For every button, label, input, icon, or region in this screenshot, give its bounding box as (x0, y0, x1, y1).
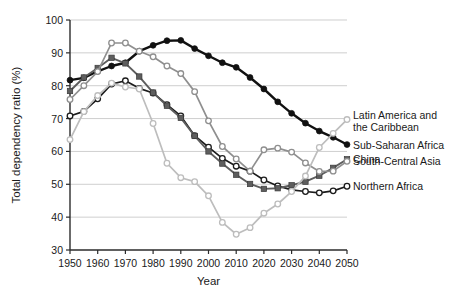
data-point (220, 161, 225, 166)
data-point (109, 80, 115, 86)
data-point (344, 142, 350, 148)
data-point (303, 120, 309, 126)
y-tick-label-60: 60 (51, 145, 63, 157)
data-point (261, 186, 266, 191)
data-point (247, 181, 252, 186)
data-point (123, 61, 128, 66)
data-point (206, 53, 212, 59)
y-axis-tick-labels: 30405060708090100 (45, 14, 63, 256)
legend-label-south-central-asia: South-Central Asia (353, 155, 441, 167)
data-point (233, 163, 239, 169)
data-point (289, 149, 295, 155)
data-point (233, 156, 239, 162)
y-tick-label-100: 100 (45, 14, 63, 26)
data-point (178, 37, 184, 43)
data-point (275, 145, 281, 151)
y-tick-label-40: 40 (51, 211, 63, 223)
data-point (67, 137, 73, 143)
x-tick-label-1950: 1950 (58, 257, 82, 269)
data-point (261, 210, 267, 216)
data-point (344, 117, 350, 123)
data-point (81, 83, 87, 89)
data-point (109, 40, 115, 46)
data-point (150, 42, 156, 48)
data-point (192, 133, 197, 138)
data-point (330, 168, 336, 174)
data-point (164, 160, 170, 166)
data-point (261, 86, 267, 92)
data-point (289, 183, 294, 188)
data-point (192, 46, 198, 52)
y-tick-label-80: 80 (51, 80, 63, 92)
data-point (330, 131, 336, 137)
x-tick-label-1980: 1980 (141, 257, 165, 269)
dependency-ratio-chart: 30405060708090100 1950196019701980199020… (0, 0, 471, 304)
x-tick-label-2050: 2050 (335, 257, 359, 269)
data-point (317, 145, 323, 151)
chart-canvas: 30405060708090100 1950196019701980199020… (0, 0, 471, 304)
data-point (289, 110, 295, 116)
data-point (136, 48, 142, 54)
x-tick-label-1960: 1960 (86, 257, 110, 269)
x-tick-label-1990: 1990 (169, 257, 193, 269)
y-tick-label-30: 30 (51, 244, 63, 256)
legend-label-northern-africa: Northern Africa (353, 180, 423, 192)
series-line (70, 83, 347, 234)
data-point (178, 71, 184, 77)
data-point (109, 63, 115, 69)
data-point (150, 90, 155, 95)
data-point (317, 190, 323, 196)
data-point (192, 179, 198, 185)
data-point (67, 97, 73, 103)
data-point (123, 40, 129, 46)
data-point (247, 225, 253, 231)
data-point (317, 169, 323, 175)
legend-label-latin-america-and-the-caribbean: Latin America and (353, 109, 437, 121)
legend-label-line2: the Caribbean (353, 121, 419, 133)
data-point (261, 147, 267, 153)
data-point (220, 156, 226, 162)
x-axis-tick-labels: 1950196019701980199020002010202020302040… (58, 257, 359, 269)
data-point (178, 175, 184, 181)
data-point (261, 177, 267, 183)
data-point (275, 186, 280, 191)
x-tick-label-2020: 2020 (252, 257, 276, 269)
data-point (150, 121, 156, 127)
x-tick-label-1970: 1970 (114, 257, 138, 269)
data-point (247, 75, 253, 81)
data-point (219, 60, 225, 66)
data-point (275, 99, 281, 105)
x-tick-label-2010: 2010 (225, 257, 249, 269)
series-sub-saharan-africa (67, 37, 350, 147)
data-point (233, 64, 239, 70)
data-point (220, 220, 226, 226)
data-point (316, 128, 322, 134)
data-point (178, 115, 183, 120)
data-point (123, 84, 129, 90)
data-series (67, 37, 350, 237)
data-point (137, 74, 142, 79)
data-point (234, 172, 239, 177)
y-tick-label-90: 90 (51, 47, 63, 59)
data-point (67, 113, 73, 119)
x-tick-label-2030: 2030 (280, 257, 304, 269)
data-point (150, 54, 156, 60)
data-point (192, 89, 198, 95)
chart-legend: Latin America andthe CaribbeanSub-Sahara… (353, 109, 444, 193)
data-point (247, 168, 253, 174)
data-point (344, 158, 350, 164)
y-tick-label-50: 50 (51, 178, 63, 190)
data-point (303, 179, 308, 184)
data-point (275, 201, 281, 207)
data-point (233, 231, 239, 237)
data-point (136, 86, 142, 92)
data-point (95, 69, 101, 75)
data-point (164, 63, 170, 69)
data-point (303, 173, 309, 179)
x-tick-label-2040: 2040 (308, 257, 332, 269)
series-latin-america-and-the-caribbean (67, 80, 350, 237)
x-axis-title: Year (197, 275, 220, 287)
data-point (67, 88, 72, 93)
data-point (123, 78, 129, 84)
data-point (81, 109, 87, 115)
